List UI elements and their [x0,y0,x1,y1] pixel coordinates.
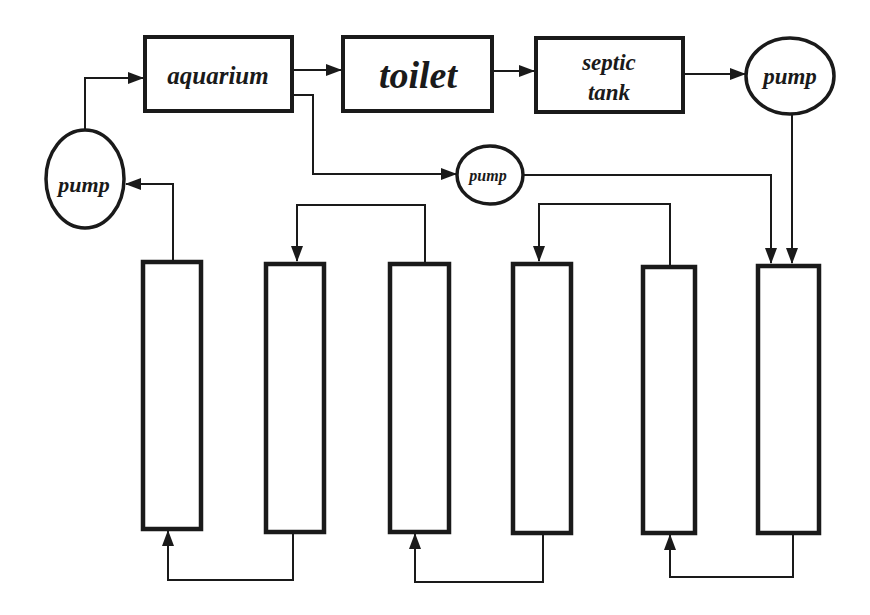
pump-right: pump [746,38,834,114]
septic-tank-label-line1: septic [581,50,636,75]
septic-tank-label-line2: tank [588,80,631,105]
pump-right-label: pump [761,64,817,89]
edge-pump-middle-to-column-6 [524,175,771,263]
column-4 [513,264,571,533]
toilet-box: toilet [343,37,492,111]
edge-pump-left-to-aquarium [85,78,143,130]
toilet-label: toilet [379,54,459,96]
column-6 [758,266,819,533]
flow-diagram: aquarium toilet septic tank pump pump pu… [0,0,870,615]
septic-tank-box: septic tank [536,38,683,112]
column-3 [390,264,449,532]
column-1 [143,262,201,529]
edge-column-2-to-column-1 [168,531,293,580]
pump-left: pump [46,130,124,228]
pump-left-label: pump [56,172,109,197]
edge-column-1-to-pump-left [126,184,173,260]
edge-column-3-to-column-2 [297,205,425,262]
column-5 [643,267,695,533]
aquarium-label: aquarium [167,62,268,89]
edge-column-6-to-column-5 [670,535,793,577]
edge-column-4-to-column-3 [415,534,543,582]
edge-column-5-to-column-4 [539,204,670,265]
column-2 [266,264,324,532]
aquarium-box: aquarium [145,37,292,111]
pump-middle-label: pump [467,167,506,185]
pump-middle: pump [457,146,523,204]
